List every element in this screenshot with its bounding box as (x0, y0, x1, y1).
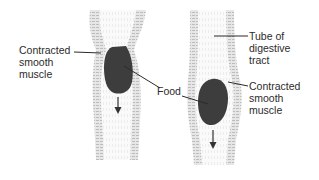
label-right-contracted-muscle: Contracted smooth muscle (249, 80, 300, 116)
left-food-bolus (104, 46, 133, 94)
label-left-contracted-muscle: Contracted smooth muscle (19, 44, 70, 80)
label-tube-of-digestive-tract: Tube of digestive tract (249, 30, 290, 66)
label-food: Food (157, 85, 181, 97)
